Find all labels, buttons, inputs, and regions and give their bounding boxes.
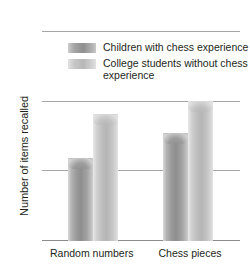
bar-chart: Number of items recalled 15 10 5 0 Chil [0, 0, 250, 272]
bar-random-numbers-college [93, 114, 118, 241]
legend-item-children: Children with chess experience [68, 41, 250, 54]
bar-top-cap [93, 114, 118, 125]
x-category-label-chess-pieces: Chess pieces [150, 247, 230, 259]
y-axis-title: Number of items recalled [16, 66, 32, 246]
gridline-15 [42, 31, 240, 32]
bar-chess-pieces-college [188, 101, 213, 241]
bar-random-numbers-children [68, 158, 93, 241]
bar-top-cap [188, 101, 213, 112]
legend-label-children: Children with chess experience [103, 41, 248, 54]
bar-top-cap [163, 133, 188, 144]
legend-label-college: College students without chess experienc… [103, 57, 250, 82]
bar-top-cap [68, 158, 93, 169]
bar-chess-pieces-children [163, 133, 188, 241]
legend-item-college: College students without chess experienc… [68, 57, 250, 82]
legend-swatch-icon [68, 43, 96, 53]
legend-swatch-icon [68, 59, 96, 69]
legend: Children with chess experience College s… [68, 41, 250, 85]
x-category-label-random-numbers: Random numbers [50, 247, 130, 259]
